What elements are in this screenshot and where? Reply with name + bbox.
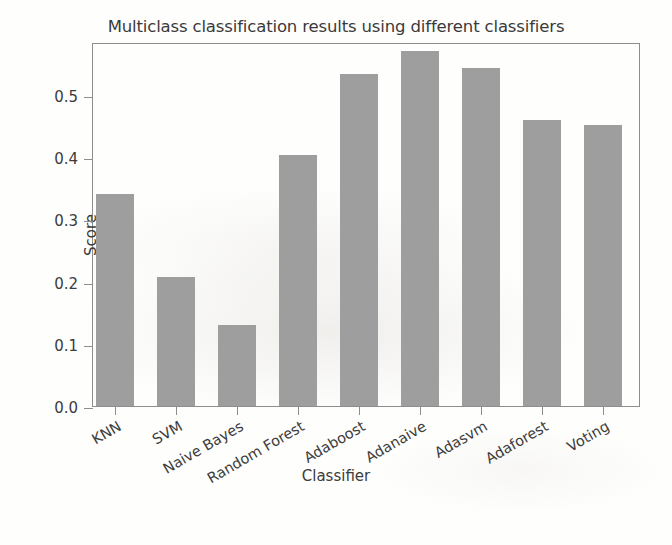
x-tick-label: KNN: [89, 418, 124, 447]
y-tick-label: 0.1: [54, 337, 78, 355]
y-tick-label: 0.0: [54, 399, 78, 417]
x-tick-label: SVM: [150, 418, 185, 448]
bar: [157, 277, 195, 406]
y-tick: 0.1: [84, 346, 93, 347]
bar: [584, 125, 622, 406]
bar: [279, 155, 317, 406]
y-tick-label: 0.5: [54, 88, 78, 106]
y-tick: 0.3: [84, 221, 93, 222]
x-tick-label: Voting: [564, 418, 612, 455]
x-tick-label: Adanaive: [363, 418, 429, 466]
x-tick: Adaforest: [542, 406, 543, 415]
y-tick: 0.2: [84, 284, 93, 285]
x-tick-label: Adasvm: [432, 418, 490, 461]
x-tick: SVM: [176, 406, 177, 415]
bar: [96, 194, 134, 406]
y-tick: 0.5: [84, 97, 93, 98]
plot-area: Score 0.00.10.20.30.40.5 KNNSVMNaive Bay…: [92, 43, 640, 407]
bar: [401, 51, 439, 406]
x-tick-label: Adaboost: [301, 418, 368, 466]
x-tick: Adaboost: [359, 406, 360, 415]
bar-chart-figure: Multiclass classification results using …: [0, 0, 672, 545]
bar: [340, 74, 378, 406]
y-tick: 0.4: [84, 159, 93, 160]
y-tick-label: 0.4: [54, 150, 78, 168]
x-axis-label: Classifier: [0, 467, 672, 485]
bar: [523, 120, 561, 406]
bar: [462, 68, 500, 406]
x-tick: Adanaive: [420, 406, 421, 415]
x-tick: Adasvm: [481, 406, 482, 415]
x-tick: Naive Bayes: [237, 406, 238, 415]
x-tick: KNN: [115, 406, 116, 415]
x-tick-label: Adaforest: [482, 418, 550, 467]
y-tick: 0.0: [84, 408, 93, 409]
y-tick-label: 0.2: [54, 275, 78, 293]
y-tick-label: 0.3: [54, 212, 78, 230]
x-tick: Random Forest: [298, 406, 299, 415]
x-tick: Voting: [603, 406, 604, 415]
bar: [218, 325, 256, 407]
chart-title: Multiclass classification results using …: [0, 17, 672, 36]
